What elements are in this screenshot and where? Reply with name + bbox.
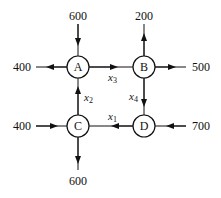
node-B-label: B — [140, 60, 148, 74]
value-A-left: 400 — [13, 60, 31, 74]
flow-network-diagram: A B C D 600 200 400 500 400 700 600 x3 x… — [0, 0, 221, 198]
node-D-label: D — [140, 119, 149, 133]
diagram-canvas: A B C D 600 200 400 500 400 700 600 x3 x… — [0, 0, 221, 198]
var-x2: x2 — [83, 91, 93, 105]
var-x1: x1 — [107, 110, 117, 124]
value-D-right: 700 — [192, 119, 210, 133]
var-x3: x3 — [107, 71, 117, 85]
value-B-right: 500 — [192, 60, 210, 74]
value-A-top: 600 — [69, 9, 87, 23]
value-C-bottom: 600 — [69, 174, 87, 188]
node-A-label: A — [74, 60, 83, 74]
node-C-label: C — [74, 119, 82, 133]
value-C-left: 400 — [13, 119, 31, 133]
var-x4: x4 — [128, 90, 138, 104]
value-B-top: 200 — [135, 9, 153, 23]
